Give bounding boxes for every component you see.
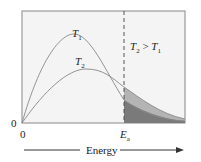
x-axis-label: Energy — [86, 144, 118, 156]
arrow-head-icon — [176, 147, 184, 153]
x-zero-label: 0 — [20, 128, 26, 140]
plot-frame — [22, 11, 185, 123]
y-zero-label: 0 — [11, 117, 17, 129]
ea-label: Ea — [119, 128, 131, 143]
energy-distribution-diagram: T1 T2 T2 > T1 0 0 Ea Energy — [0, 0, 201, 162]
